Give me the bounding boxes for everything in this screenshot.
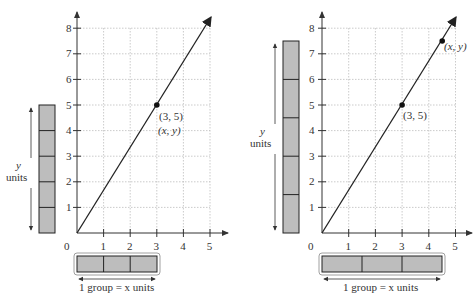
right-figure: 1 2 3 4 5 6 7 8 0 1 2 3 4 5 (3, 5) (x, y… <box>250 12 472 293</box>
right-x-group-label: 1 group = x units <box>343 281 418 293</box>
left-y-tick-4: 4 <box>66 124 72 136</box>
right-y-tick-8: 8 <box>309 22 315 34</box>
left-y-tick-5: 5 <box>66 99 72 111</box>
right-y-tick-6: 6 <box>309 73 315 85</box>
right-point-label: (3, 5) <box>403 109 427 122</box>
left-y-var-label: y <box>15 159 21 171</box>
left-y-tick-7: 7 <box>66 47 72 59</box>
right-y-tick-4: 4 <box>309 124 315 136</box>
right-y-tick-2: 2 <box>309 175 315 187</box>
left-x-tick-5: 5 <box>207 240 213 252</box>
right-grid <box>322 28 456 233</box>
right-y-tick-1: 1 <box>309 201 315 213</box>
left-grid <box>77 28 210 233</box>
left-x-tick-2: 2 <box>127 240 133 252</box>
left-point-label: (3, 5) <box>159 110 183 123</box>
right-origin-label: 0 <box>308 240 314 252</box>
right-horizontal-tape <box>319 253 445 275</box>
right-y-tick-5: 5 <box>309 99 315 111</box>
left-vertical-tape <box>39 105 55 233</box>
right-x-tick-1: 1 <box>346 240 352 252</box>
right-point-general-label: (x, y) <box>444 40 467 53</box>
left-x-tick-1: 1 <box>101 240 107 252</box>
left-y-tick-6: 6 <box>66 73 72 85</box>
left-x-tick-4: 4 <box>180 240 186 252</box>
left-y-tick-8: 8 <box>66 22 72 34</box>
left-point-3-5 <box>154 102 160 108</box>
right-y-units-label: units <box>250 137 271 149</box>
right-x-tick-5: 5 <box>452 240 458 252</box>
right-proportional-line <box>322 17 456 233</box>
right-x-tick-4: 4 <box>426 240 432 252</box>
left-origin-label: 0 <box>64 240 70 252</box>
figure-canvas: 1 2 3 4 5 6 7 8 0 1 2 3 4 5 (3, 5) (x, y… <box>0 0 474 297</box>
left-horizontal-tape <box>74 253 160 275</box>
left-y-tick-2: 2 <box>66 175 72 187</box>
right-y-var-label: y <box>259 125 265 137</box>
right-y-tick-7: 7 <box>309 47 315 59</box>
left-x-group-label: 1 group = x units <box>79 281 154 293</box>
left-y-units-label: units <box>6 171 27 183</box>
left-y-tick-1: 1 <box>66 201 72 213</box>
right-point-3-5 <box>399 102 405 108</box>
left-proportional-line <box>77 17 211 233</box>
left-point-sublabel: (x, y) <box>158 124 181 137</box>
right-vertical-tape <box>283 41 299 233</box>
right-x-tick-3: 3 <box>399 240 405 252</box>
left-x-tick-3: 3 <box>154 240 160 252</box>
right-y-tick-3: 3 <box>309 150 315 162</box>
left-figure: 1 2 3 4 5 6 7 8 0 1 2 3 4 5 (3, 5) (x, y… <box>6 12 228 293</box>
left-y-tick-3: 3 <box>66 150 72 162</box>
right-x-tick-2: 2 <box>372 240 378 252</box>
